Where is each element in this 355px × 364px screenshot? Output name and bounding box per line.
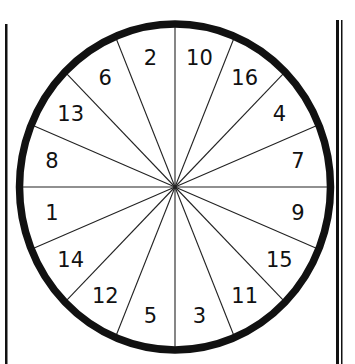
sector-label: 1 — [45, 201, 58, 225]
sector-label: 13 — [57, 102, 84, 126]
sector-label: 6 — [99, 66, 112, 90]
spokes — [22, 27, 328, 347]
left-border-line — [5, 24, 8, 364]
right-border-line-outer — [336, 20, 339, 364]
spoke-line — [67, 74, 175, 187]
right-border-line-inner — [341, 20, 343, 364]
sector-label: 2 — [144, 46, 157, 70]
wheel-diagram: 10164791511351214181362 — [0, 0, 355, 364]
sector-label: 7 — [291, 149, 304, 173]
spoke-line — [175, 74, 283, 187]
sector-label: 15 — [266, 248, 293, 272]
sector-label: 8 — [45, 149, 58, 173]
sector-label: 9 — [291, 201, 304, 225]
sector-label: 10 — [186, 46, 213, 70]
sector-label: 14 — [57, 248, 84, 272]
sector-label: 16 — [231, 66, 258, 90]
sector-label: 5 — [144, 304, 157, 328]
spoke-line — [67, 187, 175, 300]
sector-label: 4 — [273, 102, 286, 126]
spoke-line — [175, 187, 283, 300]
sector-label: 12 — [92, 284, 119, 308]
sector-label: 11 — [231, 284, 258, 308]
sector-label: 3 — [193, 304, 206, 328]
